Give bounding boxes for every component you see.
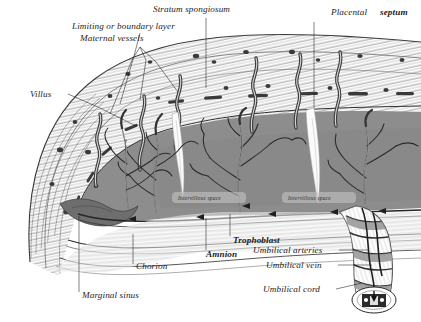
label-umbilical-arteries: Umbilical arteries — [253, 245, 323, 255]
intervillous-space-2-text: Intervillous space — [287, 195, 331, 201]
label-villus: Villus — [30, 89, 52, 99]
label-marginal-sinus: Marginal sinus — [81, 290, 139, 300]
label-septum: septum — [379, 7, 408, 17]
label-chorion: Chorion — [136, 261, 168, 271]
placenta-diagram: Intervillous space Intervillous space St… — [0, 0, 421, 322]
intervillous-space-1-text: Intervillous space — [177, 195, 221, 201]
cord-cross-section — [352, 287, 396, 313]
label-umbilical-cord: Umbilical cord — [263, 284, 320, 294]
label-maternal-vessels: Maternal vessels — [79, 33, 144, 43]
label-placental: Placental — [330, 7, 367, 17]
label-limiting-layer: Limiting or boundary layer — [71, 21, 175, 31]
label-intervillous-space-1: Intervillous space — [172, 192, 246, 203]
label-stratum-spongiosum: Stratum spongiosum — [153, 4, 230, 14]
label-intervillous-space-2: Intervillous space — [282, 192, 356, 203]
label-umbilical-vein: Umbilical vein — [266, 260, 322, 270]
label-amnion: Amnion — [205, 249, 237, 259]
label-trophoblast: Trophoblast — [233, 235, 280, 245]
